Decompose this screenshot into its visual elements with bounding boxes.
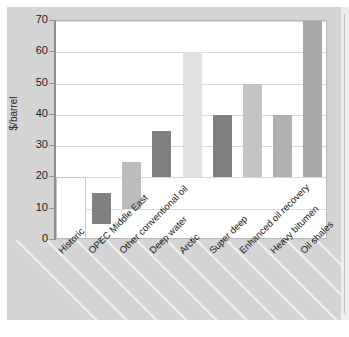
x-axis-tick-label: Historic [56, 226, 86, 256]
chart-screenshot: 010203040506070 $/barrel HistoricOPEC Mi… [0, 0, 349, 337]
right-margin-divider [344, 14, 345, 313]
x-axis-tick-label: Arctic [177, 231, 202, 256]
right-margin-strip [341, 7, 349, 320]
x-axis-tick-labels: HistoricOPEC Middle EastOther convention… [0, 0, 349, 337]
